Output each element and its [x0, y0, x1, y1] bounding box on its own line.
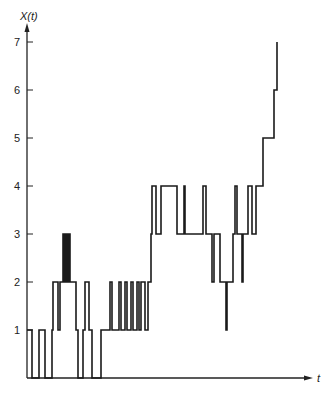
- y-tick-label: 4: [14, 180, 20, 192]
- y-axis-arrow-icon: [25, 23, 30, 32]
- y-tick-label: 7: [14, 36, 20, 48]
- step-process-chart: X(t) t 1234567: [0, 0, 335, 400]
- y-ticks: 1234567: [14, 36, 33, 336]
- y-tick-label: 2: [14, 276, 20, 288]
- y-tick-label: 5: [14, 132, 20, 144]
- y-tick-label: 6: [14, 84, 20, 96]
- sample-path-line: [27, 42, 277, 378]
- x-axis-title: t: [317, 372, 321, 384]
- y-axis-title: X(t): [19, 10, 38, 22]
- x-axis-arrow-icon: [304, 376, 313, 381]
- y-tick-label: 3: [14, 228, 20, 240]
- y-tick-label: 1: [14, 324, 20, 336]
